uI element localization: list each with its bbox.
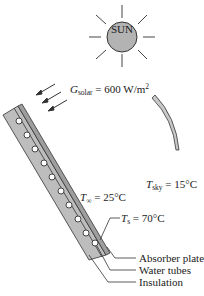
absorber-leader [107,247,136,258]
solar-irradiation-label: Gsolar = 600 W/m2 [70,83,149,95]
ambient-temperature-label: T∞ = 25°C [80,191,126,203]
radiation-arrows-icon [36,84,67,111]
absorber-plate-label: Absorber plate [139,252,204,264]
sky-arc [152,95,179,150]
sky-temperature-label: Tsky = 15°C [146,178,197,190]
insulation-label: Insulation [139,276,183,288]
insulation-leader [89,255,136,282]
water-tubes-label: Water tubes [139,264,191,276]
ts-leader [100,218,120,240]
sun-label: SUN [107,23,137,35]
absorber-plate [18,104,110,255]
surface-temperature-label: Ts = 70°C [121,212,165,224]
